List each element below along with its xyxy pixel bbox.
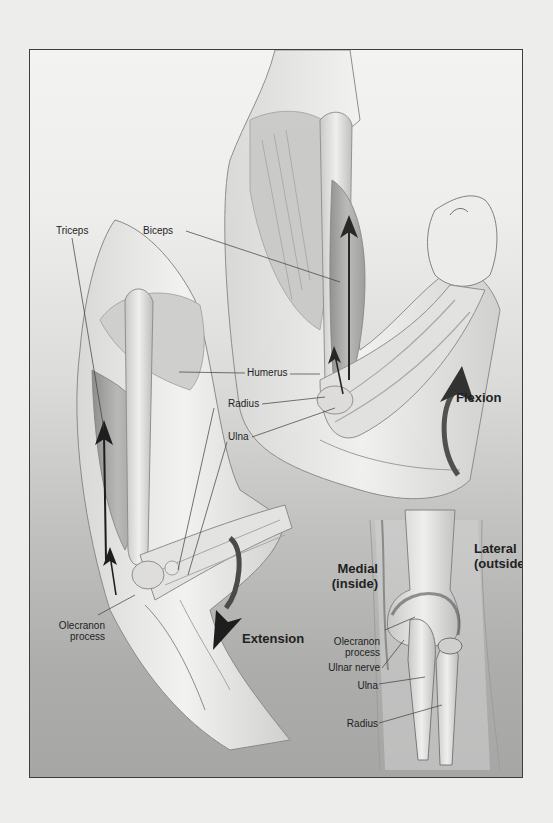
label-lateral-line2: (outside) (474, 556, 523, 571)
elbow-illustration (30, 50, 522, 777)
label-lateral-outside: Lateral (outside) (474, 541, 523, 571)
label-olecranon-left-line1: Olecranon (55, 620, 105, 631)
label-medial-inside: Medial (inside) (320, 561, 378, 591)
label-olecranon-right-line1: Olecranon (300, 636, 380, 647)
label-medial-line1: Medial (320, 561, 378, 576)
label-ulna-right: Ulna (300, 680, 378, 691)
label-ulnar-nerve: Ulnar nerve (290, 662, 380, 673)
label-extension: Extension (242, 631, 304, 646)
label-olecranon-right-line2: process (300, 647, 380, 658)
label-medial-line2: (inside) (320, 576, 378, 591)
label-flexion: Flexion (456, 390, 502, 405)
label-radius: Radius (228, 398, 259, 409)
label-olecranon-process-right: Olecranon process (300, 636, 380, 658)
label-radius-right: Radius (300, 718, 378, 729)
label-olecranon-left-line2: process (55, 631, 105, 642)
label-triceps: Triceps (56, 225, 88, 236)
label-humerus: Humerus (247, 367, 288, 378)
illustration-frame: Triceps Biceps Humerus Radius Ulna Flexi… (29, 49, 523, 778)
flexion-arm (225, 50, 500, 499)
label-olecranon-process-left: Olecranon process (55, 620, 105, 642)
label-lateral-line1: Lateral (474, 541, 523, 556)
label-biceps: Biceps (143, 225, 173, 236)
label-ulna: Ulna (228, 431, 249, 442)
